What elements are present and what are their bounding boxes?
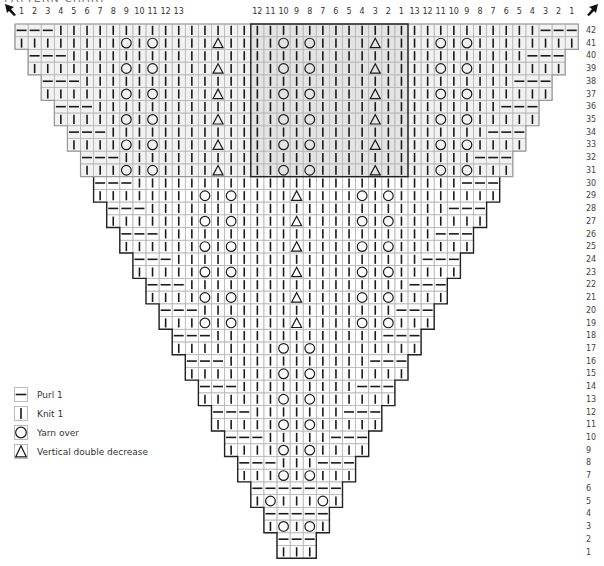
yarn-over-icon (357, 216, 367, 226)
yarn-over-icon (305, 522, 315, 532)
yarn-over-icon (200, 242, 210, 252)
yarn-over-icon (305, 394, 315, 404)
yarn-over-icon (200, 216, 210, 226)
yarn-over-icon (279, 369, 289, 379)
yarn-over-icon (279, 445, 289, 455)
yarn-over-icon (279, 394, 289, 404)
legend-dd-icon (14, 444, 28, 459)
yarn-over-icon (305, 471, 315, 481)
double-decrease-icon (292, 267, 302, 276)
yarn-over-icon (305, 420, 315, 430)
yarn-over-icon (384, 267, 394, 277)
yarn-over-icon (305, 369, 315, 379)
yarn-over-icon (200, 267, 210, 277)
yarn-over-icon (200, 318, 210, 328)
yarn-over-icon (279, 344, 289, 354)
yarn-over-icon (279, 471, 289, 481)
yarn-over-icon (200, 293, 210, 303)
yarn-over-icon (279, 522, 289, 532)
yarn-over-icon (226, 242, 236, 252)
yarn-over-icon (200, 191, 210, 201)
legend-item: Yarn over (14, 424, 148, 441)
legend-item: Knit 1 (14, 405, 148, 422)
legend-label: Yarn over (37, 428, 79, 438)
yarn-over-icon (384, 216, 394, 226)
double-decrease-icon (292, 293, 302, 302)
yarn-over-icon (384, 191, 394, 201)
yarn-over-icon (226, 293, 236, 303)
legend-purl-icon (14, 387, 28, 402)
yarn-over-icon (279, 420, 289, 430)
knitting-chart (0, 0, 604, 566)
yarn-over-icon (226, 191, 236, 201)
yarn-over-icon (357, 267, 367, 277)
legend-label: Purl 1 (37, 390, 63, 400)
legend-label: Knit 1 (37, 409, 63, 419)
yarn-over-icon (357, 318, 367, 328)
yarn-over-icon (305, 344, 315, 354)
yarn-over-icon (384, 242, 394, 252)
yarn-over-icon (305, 445, 315, 455)
yarn-over-icon (226, 267, 236, 277)
yarn-over-icon (226, 318, 236, 328)
yarn-over-icon (266, 496, 276, 506)
yarn-over-icon (226, 216, 236, 226)
legend-knit-icon (14, 406, 28, 421)
legend: Purl 1Knit 1Yarn overVertical double dec… (14, 386, 148, 462)
double-decrease-icon (292, 318, 302, 327)
legend-item: Purl 1 (14, 386, 148, 403)
legend-yo-icon (14, 425, 28, 440)
yarn-over-icon (384, 293, 394, 303)
double-decrease-icon (292, 242, 302, 251)
yarn-over-icon (357, 293, 367, 303)
legend-label: Vertical double decrease (37, 447, 148, 457)
double-decrease-icon (292, 216, 302, 225)
double-decrease-icon (292, 191, 302, 200)
yarn-over-icon (357, 242, 367, 252)
legend-item: Vertical double decrease (14, 443, 148, 460)
yarn-over-icon (357, 191, 367, 201)
yarn-over-icon (318, 496, 328, 506)
yarn-over-icon (384, 318, 394, 328)
